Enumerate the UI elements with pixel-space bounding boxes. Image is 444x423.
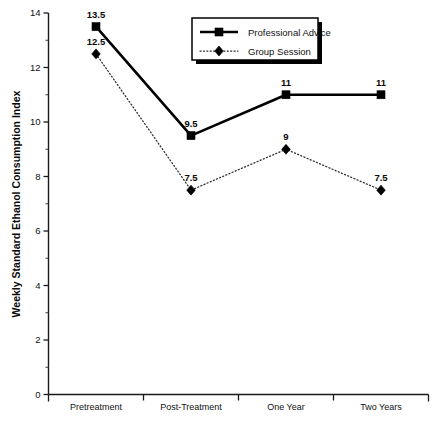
data-point-marker — [92, 23, 100, 31]
chart-figure: 02468101214 PretreatmentPost-TreatmentOn… — [0, 0, 444, 423]
data-point-marker — [187, 185, 196, 195]
data-point-label: 9 — [283, 131, 288, 142]
y-axis: 02468101214 — [30, 7, 49, 400]
data-point-label: 11 — [281, 77, 292, 88]
legend-label-2: Group Session — [248, 46, 311, 57]
y-tick-label: 10 — [30, 116, 41, 127]
line-chart: 02468101214 PretreatmentPost-TreatmentOn… — [0, 0, 444, 423]
y-tick-label: 6 — [35, 225, 40, 236]
data-point-label: 7.5 — [184, 172, 198, 183]
y-tick-label: 14 — [30, 7, 41, 18]
x-category-label: Two Years — [360, 402, 402, 412]
data-point-marker — [377, 185, 386, 195]
x-axis: PretreatmentPost-TreatmentOne YearTwo Ye… — [49, 395, 429, 412]
y-tick-label: 2 — [35, 334, 40, 345]
chart-legend[interactable]: Professional AdviceGroup Session — [192, 18, 331, 64]
x-category-label: One Year — [267, 402, 305, 412]
y-axis-ticks — [44, 13, 49, 395]
data-point-label: 12.5 — [87, 36, 106, 47]
y-tick-label: 12 — [30, 62, 41, 73]
data-point-label: 13.5 — [87, 9, 106, 20]
y-axis-title: Weekly Standard Ethanol Consumption Inde… — [10, 90, 22, 317]
x-category-label: Pretreatment — [70, 402, 123, 412]
data-point-label: 7.5 — [374, 172, 388, 183]
y-tick-label: 4 — [35, 280, 40, 291]
x-axis-category-labels: PretreatmentPost-TreatmentOne YearTwo Ye… — [70, 402, 402, 412]
data-point-marker — [187, 132, 195, 140]
y-axis-tick-labels: 02468101214 — [30, 7, 41, 400]
data-point-label: 9.5 — [184, 118, 198, 129]
data-point-marker — [282, 144, 291, 154]
y-tick-label: 8 — [35, 171, 40, 182]
data-point-marker — [282, 91, 290, 99]
y-tick-label: 0 — [35, 389, 40, 400]
legend-swatch-marker — [215, 28, 223, 36]
data-point-label: 11 — [376, 77, 387, 88]
x-axis-ticks — [49, 395, 429, 402]
data-point-marker — [377, 91, 385, 99]
legend-label-1: Professional Advice — [248, 27, 331, 38]
x-category-label: Post-Treatment — [160, 402, 222, 412]
